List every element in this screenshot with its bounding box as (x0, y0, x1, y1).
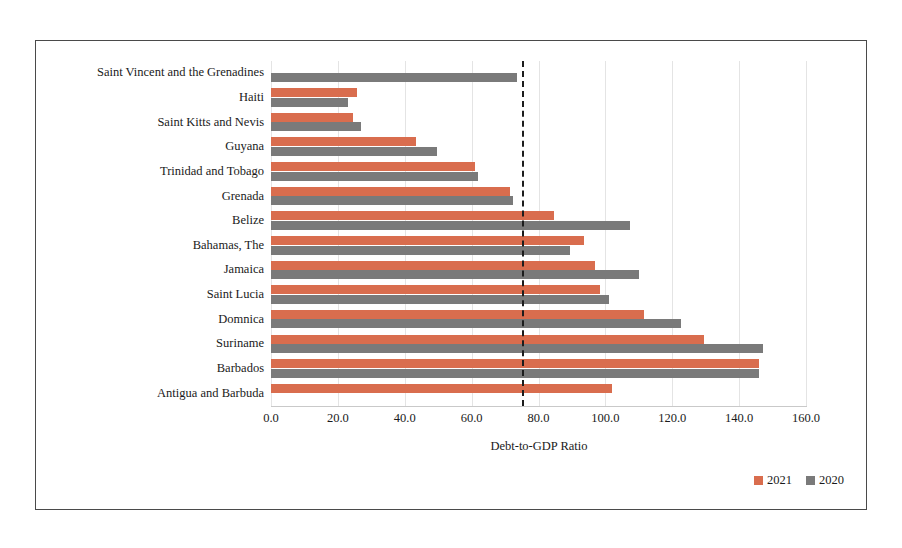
bar-2020 (271, 246, 570, 255)
legend-item: 2021 (754, 473, 792, 488)
x-tick-label: 160.0 (792, 411, 820, 426)
bar-2020 (271, 270, 639, 279)
gridline (806, 61, 807, 406)
category-label: Suriname (216, 337, 264, 350)
bar-group (271, 86, 806, 111)
bar-2021 (271, 236, 584, 245)
chart-frame: Saint Vincent and the GrenadinesHaitiSai… (35, 40, 867, 510)
bar-group (271, 258, 806, 283)
bar-group (271, 234, 806, 259)
bar-2020 (271, 344, 763, 353)
bar-2020 (271, 319, 681, 328)
chart-legend: 20212020 (36, 473, 844, 488)
category-label: Grenada (222, 190, 264, 203)
category-label: Bahamas, The (193, 239, 264, 252)
bar-2020 (271, 98, 348, 107)
threshold-line (522, 61, 524, 406)
category-label: Jamaica (224, 263, 264, 276)
legend-swatch (754, 476, 763, 485)
bar-2021 (271, 88, 357, 97)
plot-area (271, 61, 806, 406)
category-label: Saint Vincent and the Grenadines (97, 66, 264, 79)
category-label: Barbados (217, 362, 264, 375)
bar-group (271, 184, 806, 209)
category-label: Guyana (225, 140, 264, 153)
category-label: Domnica (218, 313, 264, 326)
category-label: Trinidad and Tobago (160, 165, 264, 178)
x-tick-label: 40.0 (394, 411, 416, 426)
bar-group (271, 307, 806, 332)
x-tick-label: 80.0 (528, 411, 550, 426)
bar-2021 (271, 261, 595, 270)
bar-2021 (271, 137, 416, 146)
bar-2021 (271, 384, 612, 393)
x-tick-label: 60.0 (461, 411, 483, 426)
bar-2020 (271, 369, 759, 378)
bar-group (271, 332, 806, 357)
bar-2020 (271, 196, 513, 205)
bar-2021 (271, 211, 554, 220)
bar-2020 (271, 221, 630, 230)
x-tick-label: 140.0 (725, 411, 753, 426)
bar-2020 (271, 147, 437, 156)
x-axis-tick-labels: 0.020.040.060.080.0100.0120.0140.0160.0 (271, 411, 807, 433)
x-tick-label: 100.0 (591, 411, 619, 426)
bar-2021 (271, 113, 353, 122)
bar-2021 (271, 162, 475, 171)
bar-2021 (271, 359, 759, 368)
bar-group (271, 357, 806, 382)
legend-label: 2021 (767, 473, 792, 488)
bar-group (271, 110, 806, 135)
bar-group (271, 61, 806, 86)
chart-figure: Saint Vincent and the GrenadinesHaitiSai… (0, 0, 902, 548)
category-label: Belize (232, 214, 264, 227)
category-axis-labels: Saint Vincent and the GrenadinesHaitiSai… (36, 61, 264, 406)
bar-2021 (271, 285, 600, 294)
bar-2020 (271, 73, 517, 82)
bar-group (271, 381, 806, 406)
plot-wrapper: Saint Vincent and the GrenadinesHaitiSai… (36, 41, 866, 509)
category-label: Haiti (239, 91, 264, 104)
bar-2020 (271, 295, 609, 304)
x-tick-label: 120.0 (658, 411, 686, 426)
legend-item: 2020 (806, 473, 844, 488)
bar-2021 (271, 335, 704, 344)
bar-2021 (271, 187, 510, 196)
bar-group (271, 209, 806, 234)
legend-swatch (806, 476, 815, 485)
x-tick-label: 0.0 (263, 411, 279, 426)
bar-2021 (271, 310, 644, 319)
bar-2020 (271, 122, 361, 131)
legend-label: 2020 (819, 473, 844, 488)
bar-2020 (271, 172, 478, 181)
bar-group (271, 135, 806, 160)
bar-group (271, 160, 806, 185)
category-label: Antigua and Barbuda (157, 387, 264, 400)
category-label: Saint Lucia (207, 288, 264, 301)
x-axis-line (271, 406, 807, 407)
x-tick-label: 20.0 (327, 411, 349, 426)
category-label: Saint Kitts and Nevis (157, 116, 264, 129)
x-axis-title: Debt-to-GDP Ratio (271, 439, 807, 454)
bar-group (271, 283, 806, 308)
